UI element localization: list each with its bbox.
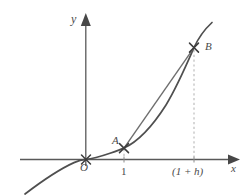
y-axis-arrowhead <box>81 13 91 26</box>
point-b-label: B <box>205 41 212 52</box>
marker-point-a <box>120 144 129 153</box>
coordinate-diagram: y x O A B 1 (1 + h) <box>0 0 243 196</box>
x-tick-label-1: 1 <box>121 166 127 177</box>
origin-label: O <box>80 162 88 173</box>
x-axis-label: x <box>231 163 236 174</box>
point-a-label: A <box>112 135 119 146</box>
y-axis-label: y <box>71 13 76 25</box>
chord-ab <box>124 48 194 149</box>
x-tick-label-1-plus-h: (1 + h) <box>172 166 203 177</box>
